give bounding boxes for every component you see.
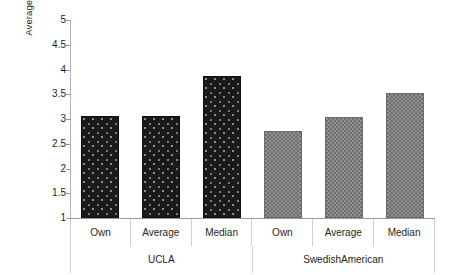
category-label-cell: Median [374, 219, 435, 246]
y-tick-label: 4.5 [40, 40, 66, 50]
bar [203, 76, 241, 218]
category-label-cell: Median [192, 219, 253, 246]
group-label-cell: SwedishAmerican [253, 246, 436, 273]
y-axis-title: Average rating of portfolio [22, 0, 36, 60]
bar [325, 117, 363, 218]
group-label-row: UCLASwedishAmerican [70, 246, 435, 273]
y-tick-label: 3.5 [40, 89, 66, 99]
y-tick-label: 1.5 [40, 188, 66, 198]
y-tick-label: 3 [40, 114, 66, 124]
y-axis-tick-labels: 54.543.532.521.51 [36, 0, 66, 275]
category-label-cell: Own [252, 219, 313, 246]
y-tick-label: 1 [40, 213, 66, 223]
plot-area [70, 20, 435, 218]
y-tick-label: 2 [40, 164, 66, 174]
category-label-cell: Average [131, 219, 192, 246]
category-label-row: OwnAverageMedianOwnAverageMedian [70, 219, 435, 246]
category-table: OwnAverageMedianOwnAverageMedian UCLASwe… [70, 219, 435, 273]
bar [386, 93, 424, 218]
category-label-cell: Average [313, 219, 374, 246]
bar-chart: Average rating of portfolio 54.543.532.5… [0, 0, 456, 275]
category-label-cell: Own [70, 219, 131, 246]
group-label-cell: UCLA [70, 246, 253, 273]
bar [264, 131, 302, 218]
bar [142, 116, 180, 218]
bar [81, 116, 119, 218]
y-tick-label: 4 [40, 65, 66, 75]
y-tick-label: 2.5 [40, 139, 66, 149]
y-tick-label: 5 [40, 15, 66, 25]
